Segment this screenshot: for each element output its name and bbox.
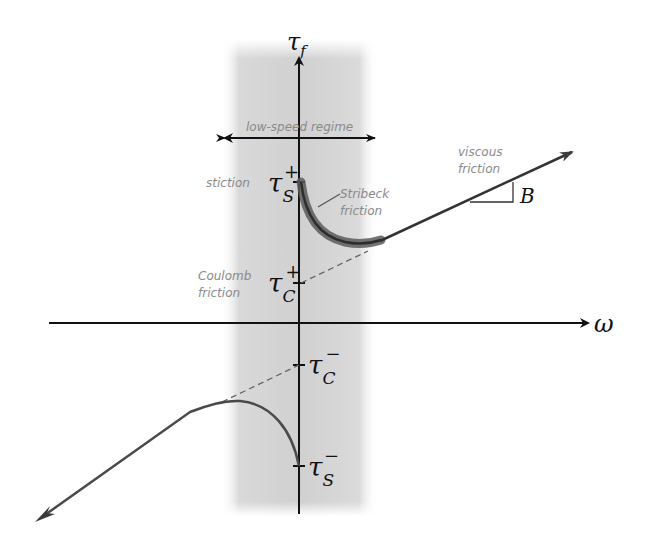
friction-diagram: ω τf low-speed regime τS+ τC+ τC− τS− B … [0,0,668,536]
stribeck-label-line1: Stribeck [340,187,390,201]
slope-triangle [470,182,513,202]
slope-label-b: B [519,184,535,208]
viscous-label-line2: friction [458,162,500,176]
stribeck-label-line2: friction [340,204,382,218]
stiction-label: stiction [206,176,250,190]
viscous-label-line1: viscous [458,145,502,159]
coulomb-label-line2: friction [198,286,240,300]
low-speed-regime-label: low-speed regime [246,120,353,134]
omega-axis-label: ω [594,310,614,338]
coulomb-label-line1: Coulomb [198,269,252,283]
tau-f-axis-label: τf [287,28,308,60]
